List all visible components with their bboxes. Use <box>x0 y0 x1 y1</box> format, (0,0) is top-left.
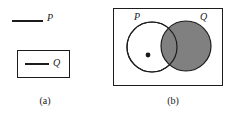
label-q-venn: Q <box>200 11 207 23</box>
panel-a: P Q (a) <box>0 0 110 118</box>
line-segment-q <box>25 63 49 65</box>
label-p-outer: P <box>47 12 53 24</box>
label-q-inner: Q <box>53 57 60 69</box>
caption-a: (a) <box>0 95 90 107</box>
line-segment-p <box>12 20 43 22</box>
point-marker <box>146 53 151 58</box>
figure-root: P Q (a) P Q (b) <box>0 0 233 118</box>
caption-b: (b) <box>123 95 223 107</box>
panel-b: P Q (b) <box>110 0 233 118</box>
label-p-venn: P <box>134 11 140 23</box>
